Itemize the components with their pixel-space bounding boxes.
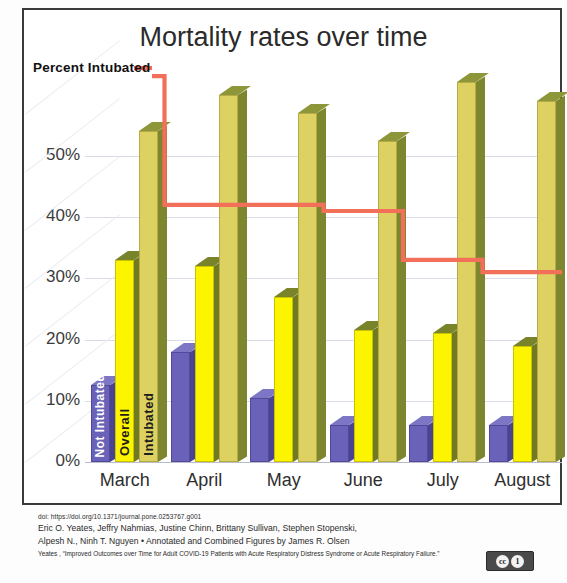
bar-front-face	[115, 260, 134, 462]
bar-side-face	[556, 95, 565, 462]
figure-container: Mortality rates over time 0%10%20%30%40%…	[0, 0, 567, 583]
bar-front-face	[139, 131, 158, 462]
x-axis-tick-may: May	[267, 470, 301, 491]
bar-august-overall[interactable]	[513, 346, 532, 462]
bar-august-not-intubated[interactable]	[489, 425, 508, 462]
bar-april-not-intubated[interactable]	[171, 352, 190, 462]
bar-front-face	[298, 113, 317, 462]
x-axis-tick-august: August	[494, 470, 550, 491]
y-axis: 0%10%20%30%40%50%	[22, 64, 80, 462]
bar-group	[165, 64, 245, 462]
caption-authors-line-2: Alpesh N., Ninh T. Nguyen • Annotated an…	[38, 535, 508, 548]
x-axis-tick-april: April	[186, 470, 222, 491]
bar-front-face	[91, 385, 110, 462]
bar-march-not-intubated[interactable]	[91, 385, 110, 462]
bar-june-overall[interactable]	[354, 330, 373, 462]
bar-july-intubated[interactable]	[457, 82, 476, 462]
bar-group	[244, 64, 324, 462]
bar-july-overall[interactable]	[433, 333, 452, 462]
caption-doi: doi: https://doi.org/10.1371/journal.pon…	[38, 512, 508, 522]
bar-front-face	[409, 425, 428, 462]
bar-front-face	[219, 95, 238, 462]
page-title: Mortality rates over time	[0, 22, 567, 53]
bar-front-face	[354, 330, 373, 462]
bar-may-not-intubated[interactable]	[250, 398, 269, 462]
bar-group	[483, 64, 563, 462]
bar-may-intubated[interactable]	[298, 113, 317, 462]
y-axis-tick-label: 10%	[28, 390, 80, 410]
bar-front-face	[489, 425, 508, 462]
caption-source-line: Yeates , “Improved Outcomes over Time fo…	[38, 548, 508, 559]
bar-front-face	[195, 266, 214, 462]
bar-front-face	[250, 398, 269, 462]
bar-group: Not IntubatedOverallIntubated	[85, 64, 165, 462]
bar-march-overall[interactable]	[115, 260, 134, 462]
figure-caption: doi: https://doi.org/10.1371/journal.pon…	[38, 512, 508, 559]
bar-june-not-intubated[interactable]	[330, 425, 349, 462]
bar-front-face	[433, 333, 452, 462]
bar-august-intubated[interactable]	[537, 101, 556, 462]
bar-front-face	[274, 297, 293, 462]
gridline	[85, 462, 562, 463]
bar-may-overall[interactable]	[274, 297, 293, 462]
caption-authors-line-1: Eric O. Yeates, Jeffry Nahmias, Justine …	[38, 522, 508, 535]
creative-commons-by-icon: cc 1	[486, 551, 534, 571]
cc-mark-icon: cc	[496, 555, 509, 568]
bar-june-intubated[interactable]	[378, 141, 397, 462]
percent-intubated-label: Percent Intubated	[33, 60, 150, 75]
bar-front-face	[457, 82, 476, 462]
bar-group	[403, 64, 483, 462]
bar-front-face	[171, 352, 190, 462]
bar-july-not-intubated[interactable]	[409, 425, 428, 462]
x-axis-tick-june: June	[344, 470, 383, 491]
bar-front-face	[537, 101, 556, 462]
y-axis-tick-label: 30%	[28, 267, 80, 287]
x-axis-labels: MarchAprilMayJuneJulyAugust	[85, 470, 562, 498]
y-axis-tick-label: 40%	[28, 206, 80, 226]
cc-by-mark-icon: 1	[511, 555, 524, 568]
bar-april-overall[interactable]	[195, 266, 214, 462]
plot-area: Not IntubatedOverallIntubated	[85, 64, 562, 462]
bar-group	[324, 64, 404, 462]
x-axis-tick-july: July	[427, 470, 459, 491]
bar-front-face	[378, 141, 397, 462]
bar-front-face	[513, 346, 532, 462]
bar-april-intubated[interactable]	[219, 95, 238, 462]
x-axis-tick-march: March	[100, 470, 150, 491]
bar-front-face	[330, 425, 349, 462]
bar-march-intubated[interactable]	[139, 131, 158, 462]
